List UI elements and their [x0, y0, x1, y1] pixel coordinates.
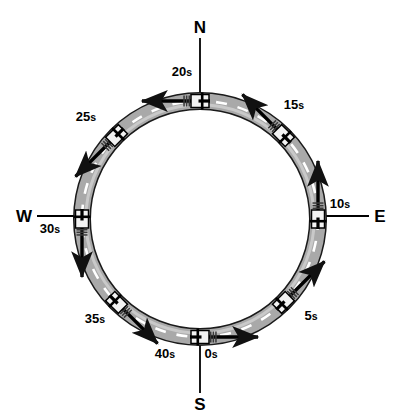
marker-5s: 5s [304, 309, 317, 322]
compass-label: N [194, 19, 206, 36]
time-unit: s [186, 66, 192, 78]
time-unit: s [90, 111, 96, 123]
car-markers [74, 93, 327, 346]
marker-35s: 35s [85, 312, 105, 325]
compass-label: S [194, 396, 205, 413]
time-unit: s [298, 99, 304, 111]
time-value: 35 [85, 311, 99, 326]
marker-10s: 10s [330, 197, 350, 210]
time-unit: s [312, 310, 318, 322]
marker-0s: 0s [204, 347, 217, 360]
time-value: 40 [155, 346, 169, 361]
diagram-canvas: N E S W 0s5s10s15s20s25s30s35s40s [0, 0, 402, 420]
marker-20s: 20s [172, 65, 192, 78]
time-unit: s [212, 348, 218, 360]
compass-label: W [16, 208, 32, 225]
time-unit: s [99, 313, 105, 325]
marker-30s: 30s [40, 222, 60, 235]
time-value: 20 [172, 64, 186, 79]
compass-label: E [374, 208, 385, 225]
marker-40s: 40s [155, 347, 175, 360]
marker-25s: 25s [76, 110, 96, 123]
marker-15s: 15s [284, 98, 304, 111]
time-value: 25 [76, 109, 90, 124]
time-unit: s [54, 223, 60, 235]
time-value: 15 [284, 97, 298, 112]
time-unit: s [169, 348, 175, 360]
time-value: 10 [330, 196, 344, 211]
time-unit: s [344, 198, 350, 210]
time-value: 30 [40, 221, 54, 236]
